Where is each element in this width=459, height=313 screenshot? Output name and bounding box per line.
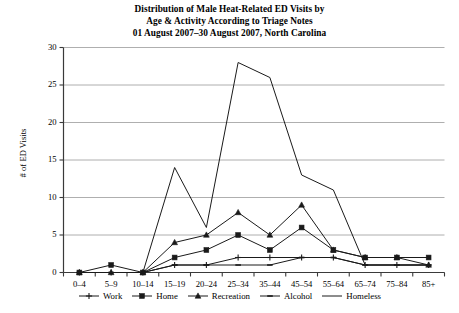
datapoint-home-1 [109, 263, 114, 268]
series-recreation [76, 202, 431, 275]
legend-item-home[interactable]: Home [131, 291, 178, 301]
chart-figure: Distribution of Male Heat-Related ED Vis… [0, 0, 459, 313]
datapoint-home-5 [236, 233, 241, 238]
legend-marker-none-icon [321, 291, 343, 301]
legend-label-work: Work [103, 291, 122, 301]
datapoint-home-6 [267, 248, 272, 253]
legend-item-work[interactable]: Work [78, 291, 122, 301]
series-line-homeless [79, 63, 428, 273]
legend-label-alcohol: Alcohol [284, 291, 312, 301]
datapoint-home-7 [299, 225, 304, 230]
series-line-recreation [79, 205, 428, 273]
datapoint-home-11 [426, 255, 431, 260]
legend-item-homeless[interactable]: Homeless [321, 291, 381, 301]
legend-label-recreation: Recreation [212, 291, 250, 301]
legend-marker-plus-icon [78, 291, 100, 301]
datapoint-recreation-7 [299, 202, 305, 207]
datapoint-home-3 [172, 255, 177, 260]
series-home [77, 225, 431, 275]
legend-item-recreation[interactable]: Recreation [187, 291, 250, 301]
chart-legend: WorkHomeRecreationAlcoholHomeless [0, 291, 459, 301]
legend-marker-triangle-icon [187, 291, 209, 301]
datapoint-recreation-4 [203, 232, 209, 237]
series-homeless [79, 63, 428, 273]
legend-marker-square-icon [131, 291, 153, 301]
legend-item-alcohol[interactable]: Alcohol [259, 291, 312, 301]
legend-point [140, 294, 145, 299]
legend-label-homeless: Homeless [346, 291, 381, 301]
legend-label-home: Home [156, 291, 178, 301]
datapoint-recreation-5 [235, 209, 241, 214]
series-line-home [79, 228, 428, 273]
datapoint-home-4 [204, 248, 209, 253]
plot-svg [0, 0, 459, 313]
plot-area [0, 0, 459, 313]
legend-marker-dash-icon [259, 291, 281, 301]
